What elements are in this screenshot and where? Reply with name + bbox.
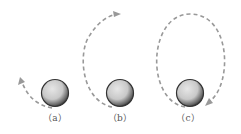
label-c: （c） <box>176 113 199 123</box>
arrow-icon <box>113 11 121 17</box>
ball-a <box>42 80 69 107</box>
arrow-icon <box>18 77 25 85</box>
panel-c: （c） <box>157 14 225 123</box>
ball-b <box>107 80 134 107</box>
ball-c <box>177 80 204 107</box>
panel-a: （a） <box>18 77 69 123</box>
label-a: （a） <box>43 113 66 123</box>
arrow-icon <box>205 98 213 106</box>
motion-diagram: （a） （b） （c） <box>0 0 241 134</box>
label-b: （b） <box>108 113 132 123</box>
panel-b: （b） <box>83 11 133 123</box>
